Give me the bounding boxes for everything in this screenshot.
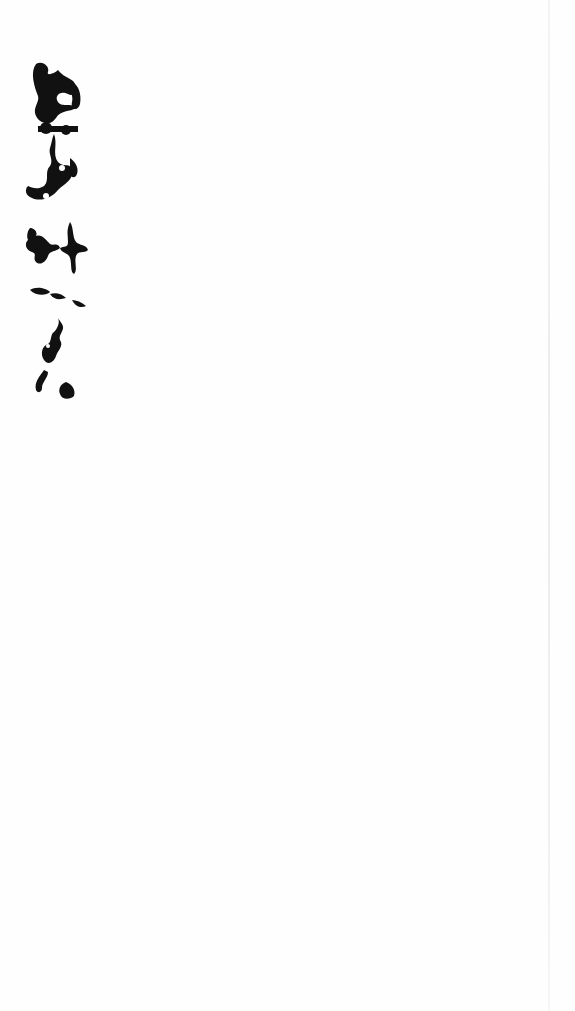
signature-glyph <box>22 58 90 208</box>
character-3 <box>42 318 63 363</box>
page-edge-line <box>548 0 550 1011</box>
vertical-characters <box>16 218 94 404</box>
character-1 <box>26 222 88 274</box>
character-2 <box>30 288 86 307</box>
character-4 <box>36 370 75 399</box>
scanned-page: scanned page <box>0 0 575 1011</box>
document-description: scanned page <box>0 0 1 1</box>
